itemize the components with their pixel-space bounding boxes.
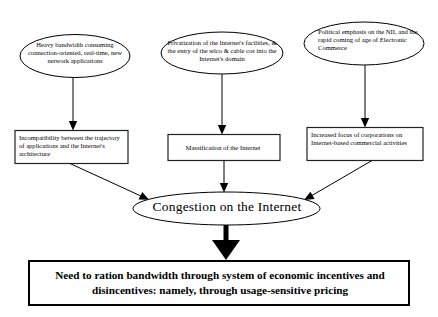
- diagram-canvas: Heavy bandwidth consuming connection-ori…: [0, 0, 438, 317]
- effect-2-label: Massification of the Internet: [171, 144, 275, 152]
- effect-1-label: Incompatibility between the trajectory o…: [19, 134, 123, 157]
- cause-1-label: Heavy bandwidth consuming connection-ori…: [22, 41, 128, 64]
- connector-effect3-congestion: [304, 161, 372, 201]
- connector-effect1-congestion: [70, 164, 149, 200]
- congestion-label: Congestion on the Internet: [133, 199, 321, 215]
- connector-cause3-effect3: [361, 65, 369, 128]
- connector-cause2-effect2: [218, 74, 226, 135]
- cause-2-label: Privatization of the Internet's faciliti…: [163, 39, 281, 62]
- conclusion-label: Need to ration bandwidth through system …: [36, 268, 404, 298]
- effect-3-label: Increased focus of corporations on Inter…: [311, 131, 419, 147]
- connector-effect2-congestion: [220, 161, 228, 193]
- cause-3-label: Political emphasis on the NII, and the r…: [318, 28, 422, 51]
- connector-cause1-effect1: [69, 78, 77, 131]
- connector-congestion-conclusion: [212, 225, 240, 260]
